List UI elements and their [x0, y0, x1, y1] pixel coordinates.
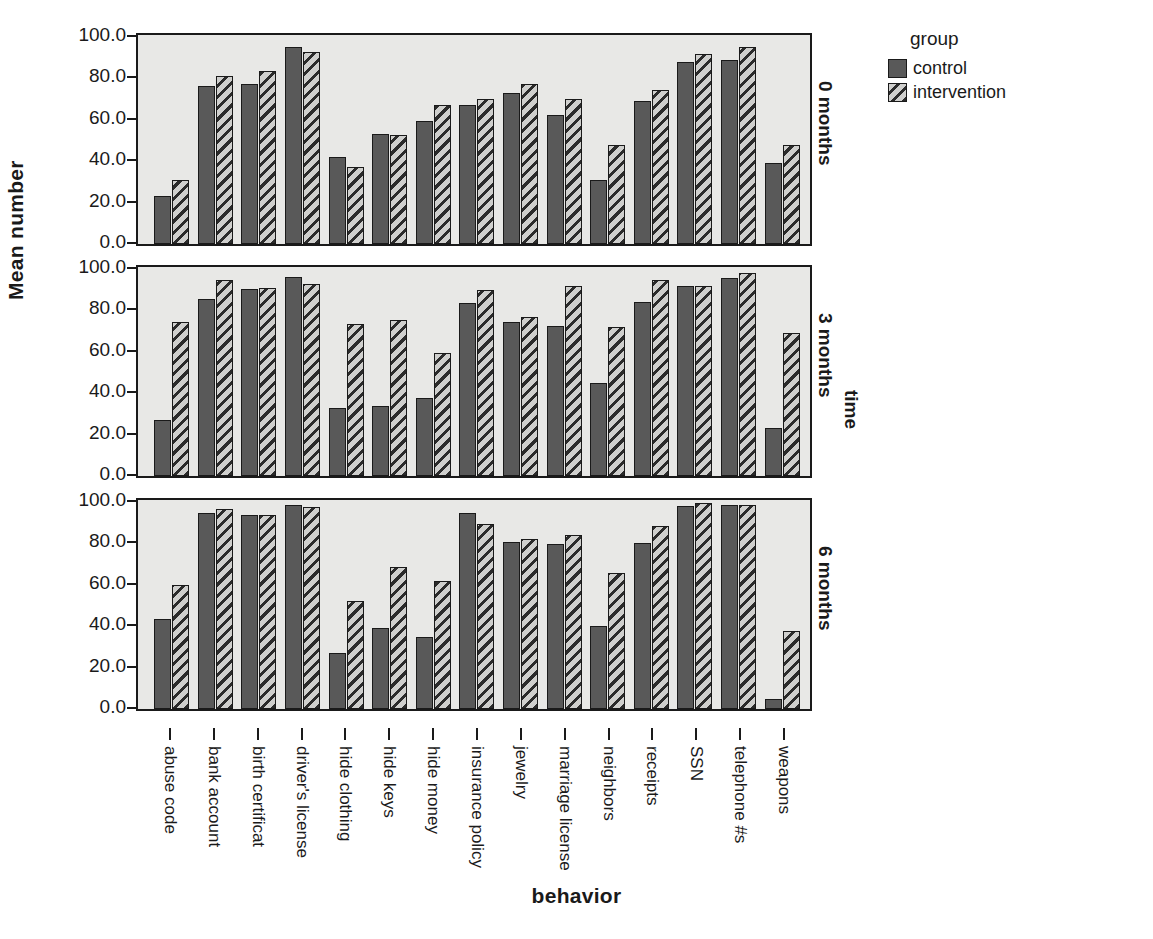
bar-control[interactable] — [241, 289, 258, 476]
legend-item-intervention[interactable]: intervention — [888, 82, 1138, 103]
bar-control[interactable] — [154, 420, 171, 476]
bar-intervention[interactable] — [434, 105, 451, 244]
x-tick-mark-icon — [695, 728, 697, 740]
bar-control[interactable] — [765, 428, 782, 476]
bar-control[interactable] — [372, 406, 389, 476]
bar-control[interactable] — [721, 60, 738, 244]
bar-control[interactable] — [721, 278, 738, 476]
bar-intervention[interactable] — [695, 54, 712, 244]
bar-intervention[interactable] — [347, 601, 364, 709]
x-category-label: neighbors — [599, 746, 619, 821]
bar-intervention[interactable] — [608, 573, 625, 709]
bar-intervention[interactable] — [477, 99, 494, 244]
bar-control[interactable] — [677, 286, 694, 476]
bar-intervention[interactable] — [172, 322, 189, 476]
bar-group — [455, 35, 499, 244]
y-tick-label: 20.0 — [89, 190, 126, 212]
bar-control[interactable] — [329, 157, 346, 244]
bar-intervention[interactable] — [347, 167, 364, 244]
bar-control[interactable] — [329, 408, 346, 476]
bar-control[interactable] — [677, 506, 694, 709]
bar-control[interactable] — [241, 84, 258, 244]
bar-intervention[interactable] — [216, 280, 233, 476]
bar-control[interactable] — [198, 299, 215, 476]
bar-control[interactable] — [590, 383, 607, 476]
bar-control[interactable] — [416, 637, 433, 709]
bar-intervention[interactable] — [521, 539, 538, 709]
bar-control[interactable] — [547, 544, 564, 709]
bar-control[interactable] — [765, 163, 782, 244]
bar-intervention[interactable] — [216, 76, 233, 244]
bar-intervention[interactable] — [303, 52, 320, 245]
y-tick-label: 100.0 — [78, 489, 126, 511]
bar-control[interactable] — [503, 322, 520, 476]
bar-intervention[interactable] — [172, 585, 189, 709]
bar-intervention[interactable] — [259, 515, 276, 709]
bar-control[interactable] — [721, 505, 738, 709]
bar-intervention[interactable] — [390, 135, 407, 244]
bar-intervention[interactable] — [739, 505, 756, 709]
bar-control[interactable] — [459, 105, 476, 244]
bar-intervention[interactable] — [172, 180, 189, 244]
bar-control[interactable] — [372, 628, 389, 709]
bar-intervention[interactable] — [216, 509, 233, 709]
bar-control[interactable] — [285, 505, 302, 709]
bar-intervention[interactable] — [652, 526, 669, 709]
bar-control[interactable] — [372, 134, 389, 244]
bar-control[interactable] — [503, 93, 520, 244]
bar-intervention[interactable] — [783, 631, 800, 709]
bar-intervention[interactable] — [783, 145, 800, 244]
bar-control[interactable] — [416, 121, 433, 244]
bar-intervention[interactable] — [608, 145, 625, 244]
bar-intervention[interactable] — [303, 284, 320, 477]
bar-control[interactable] — [285, 277, 302, 476]
bar-control[interactable] — [547, 115, 564, 244]
y-tick-mark-icon — [127, 35, 136, 37]
bar-intervention[interactable] — [477, 524, 494, 709]
bar-control[interactable] — [198, 86, 215, 244]
bar-control[interactable] — [590, 180, 607, 244]
bar-control[interactable] — [503, 542, 520, 709]
bar-intervention[interactable] — [695, 503, 712, 709]
bar-control[interactable] — [677, 62, 694, 244]
legend-swatch-control-icon — [888, 59, 907, 78]
bar-intervention[interactable] — [608, 327, 625, 476]
bar-intervention[interactable] — [739, 47, 756, 244]
bar-control[interactable] — [765, 699, 782, 709]
bar-intervention[interactable] — [652, 90, 669, 244]
bar-control[interactable] — [241, 515, 258, 709]
bar-intervention[interactable] — [565, 535, 582, 709]
bar-intervention[interactable] — [739, 273, 756, 476]
bar-intervention[interactable] — [695, 286, 712, 476]
bar-intervention[interactable] — [565, 99, 582, 244]
bar-control[interactable] — [590, 626, 607, 709]
bar-control[interactable] — [416, 398, 433, 476]
bar-intervention[interactable] — [477, 290, 494, 476]
facet-variable-title: time — [840, 390, 862, 429]
bar-control[interactable] — [198, 513, 215, 709]
bar-intervention[interactable] — [259, 288, 276, 476]
bar-intervention[interactable] — [521, 317, 538, 476]
bar-intervention[interactable] — [434, 581, 451, 709]
bar-control[interactable] — [329, 653, 346, 709]
bar-intervention[interactable] — [347, 324, 364, 476]
bar-intervention[interactable] — [565, 286, 582, 476]
bar-control[interactable] — [547, 326, 564, 476]
legend-item-control[interactable]: control — [888, 58, 1138, 79]
bar-intervention[interactable] — [303, 507, 320, 709]
bar-control[interactable] — [459, 513, 476, 709]
bar-intervention[interactable] — [259, 71, 276, 244]
bar-control[interactable] — [154, 619, 171, 709]
bar-control[interactable] — [154, 196, 171, 244]
bar-control[interactable] — [634, 543, 651, 709]
bar-intervention[interactable] — [390, 320, 407, 476]
bar-intervention[interactable] — [652, 280, 669, 476]
bar-intervention[interactable] — [434, 353, 451, 476]
bar-control[interactable] — [634, 101, 651, 244]
bar-control[interactable] — [634, 302, 651, 476]
bar-intervention[interactable] — [521, 84, 538, 244]
bar-control[interactable] — [285, 47, 302, 244]
bar-intervention[interactable] — [390, 567, 407, 709]
bar-control[interactable] — [459, 303, 476, 476]
bar-intervention[interactable] — [783, 333, 800, 476]
